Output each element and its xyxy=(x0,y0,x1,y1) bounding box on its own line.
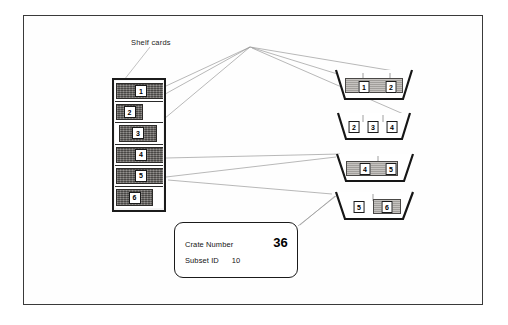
stack-slot[interactable]: 2 xyxy=(115,102,163,123)
shelf-card-number: 3 xyxy=(132,127,144,139)
crate-card-number: 2 xyxy=(386,81,397,93)
shelf-card[interactable]: 5 xyxy=(116,168,163,184)
crate-card-number: 6 xyxy=(382,201,393,213)
crate-number-label: Crate Number xyxy=(185,240,233,249)
shelf-card-number: 6 xyxy=(129,192,141,204)
shelf-card[interactable]: 3 xyxy=(119,125,157,141)
shelf-card-number: 2 xyxy=(124,106,136,118)
shelf-card-number: 1 xyxy=(135,85,147,97)
crate-number-row: Crate Number 36 xyxy=(185,235,288,250)
subset-id-row: Subset ID 10 xyxy=(185,256,288,265)
shelf-card[interactable]: 2 xyxy=(116,104,143,120)
stack-slot[interactable]: 5 xyxy=(115,166,163,187)
shelf-card[interactable]: 4 xyxy=(116,147,163,163)
crate-card-number: 4 xyxy=(360,163,371,175)
crate-card-number: 3 xyxy=(368,121,379,133)
shelf-card[interactable]: 1 xyxy=(116,83,163,99)
crate-card-number: 5 xyxy=(386,163,397,175)
stack-slot[interactable]: 3 xyxy=(115,123,163,144)
crate-card-number: 1 xyxy=(359,81,370,93)
crate-number-value: 36 xyxy=(273,235,288,250)
stack-slot[interactable]: 4 xyxy=(115,145,163,166)
crate-3[interactable]: 4 5 xyxy=(333,150,417,186)
stack-slot[interactable]: 1 xyxy=(115,81,163,102)
crate-1[interactable]: 1 2 xyxy=(333,66,415,104)
crate-4[interactable]: 5 6 xyxy=(331,188,419,224)
stack-slot[interactable]: 6 xyxy=(115,187,163,208)
crate-2[interactable]: 2 3 4 xyxy=(334,110,416,144)
crate-info-box[interactable]: Crate Number 36 Subset ID 10 xyxy=(174,222,298,278)
crate-card-number: 4 xyxy=(387,121,398,133)
subset-id-label: Subset ID xyxy=(185,256,219,265)
shelf-card-stack[interactable]: 1 2 3 4 5 6 xyxy=(112,78,166,212)
shelf-card-number: 4 xyxy=(135,149,147,161)
shelf-cards-label: Shelf cards xyxy=(131,38,171,47)
crate-card-number: 2 xyxy=(349,121,360,133)
crate-card-number: 5 xyxy=(354,201,365,213)
shelf-card-number: 5 xyxy=(135,170,147,182)
shelf-card[interactable]: 6 xyxy=(116,189,153,206)
subset-id-value: 10 xyxy=(232,256,240,265)
diagram-page: Shelf cards 1 2 3 4 5 xyxy=(0,0,508,325)
